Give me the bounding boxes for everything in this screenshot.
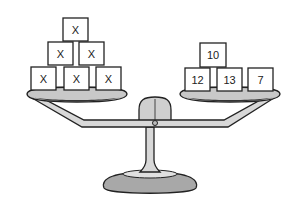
svg-text:10: 10 xyxy=(207,49,219,61)
right-blocks: 10 12 13 7 xyxy=(185,43,273,91)
left-blocks: X X X X X X xyxy=(31,18,121,90)
balance-scale-diagram: X X X X X X 10 12 13 7 xyxy=(0,0,295,207)
svg-text:X: X xyxy=(88,48,96,60)
svg-text:12: 12 xyxy=(191,74,203,86)
svg-text:X: X xyxy=(73,73,81,85)
scale-column xyxy=(140,127,160,172)
x-block: X xyxy=(64,67,89,90)
svg-text:13: 13 xyxy=(223,74,235,86)
scale-base xyxy=(103,170,196,193)
weight-block-13: 13 xyxy=(217,68,242,91)
pivot-icon xyxy=(153,121,158,126)
weight-block-7: 7 xyxy=(248,68,273,91)
svg-text:7: 7 xyxy=(257,74,263,86)
x-block: X xyxy=(96,67,121,90)
x-block: X xyxy=(31,67,56,90)
svg-text:X: X xyxy=(57,48,65,60)
svg-text:X: X xyxy=(40,73,48,85)
x-block: X xyxy=(79,42,104,65)
x-block: X xyxy=(48,42,73,65)
svg-text:X: X xyxy=(72,24,80,36)
svg-text:X: X xyxy=(105,73,113,85)
weight-block-12: 12 xyxy=(185,68,210,91)
weight-block-10: 10 xyxy=(200,43,226,67)
x-block: X xyxy=(63,18,88,41)
